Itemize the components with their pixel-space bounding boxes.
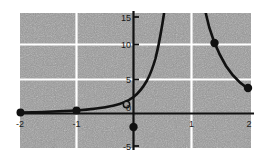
y-tick-label-10: 10 — [121, 40, 131, 50]
x-tick-label-minus-1: -1 — [72, 119, 80, 129]
chart-figure: 15 10 5 0 -5 -2 -1 1 2 — [0, 0, 268, 154]
point-left-end — [17, 109, 25, 117]
y-tick-label-5: 5 — [126, 75, 131, 85]
point-x-minus-one — [73, 107, 81, 115]
y-tick-label-15: 15 — [121, 13, 131, 23]
x-tick-label-1: 1 — [189, 119, 194, 129]
x-tick-label-minus-2: -2 — [16, 119, 24, 129]
y-tick-label-0: 0 — [126, 103, 131, 113]
x-tick-label-2: 2 — [246, 119, 251, 129]
point-right-upper — [210, 39, 218, 47]
point-right-end — [244, 84, 252, 92]
point-y-axis-negative — [129, 123, 137, 131]
plot-canvas: 15 10 5 0 -5 -2 -1 1 2 — [0, 0, 268, 154]
y-tick-label-minus-5: -5 — [123, 142, 131, 152]
